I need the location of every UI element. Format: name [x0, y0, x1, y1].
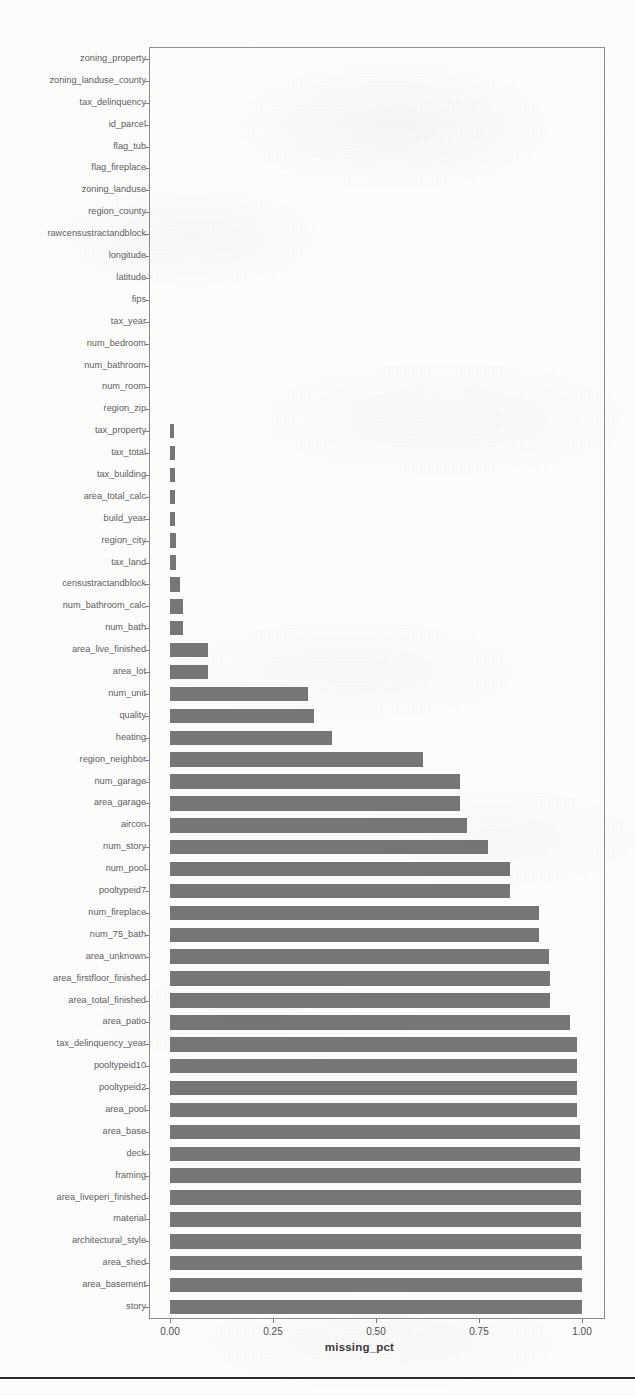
- y-tick-mark: [145, 475, 149, 476]
- bar: [170, 424, 174, 438]
- x-tick-mark: [273, 1319, 274, 1323]
- y-tick-mark: [145, 103, 149, 104]
- bar: [170, 971, 550, 985]
- bar: [170, 1081, 577, 1095]
- bar: [170, 774, 460, 788]
- bar-row: [150, 446, 604, 460]
- bar: [170, 906, 539, 920]
- page-bottom-rule: [0, 1377, 635, 1379]
- bar-row: [150, 468, 604, 482]
- y-tick-label: architectural_style: [6, 1236, 146, 1245]
- y-tick-mark: [145, 541, 149, 542]
- bar-row: [150, 577, 604, 591]
- bar: [170, 752, 423, 766]
- y-tick-mark: [145, 1176, 149, 1177]
- bar-row: [150, 314, 604, 328]
- y-tick-mark: [145, 409, 149, 410]
- bar-row: [150, 490, 604, 504]
- y-tick-mark: [145, 1066, 149, 1067]
- y-tick-mark: [145, 453, 149, 454]
- bar-row: [150, 709, 604, 723]
- y-tick-mark: [145, 957, 149, 958]
- bar-row: [150, 336, 604, 350]
- bar-row: [150, 1234, 604, 1248]
- bar-row: [150, 96, 604, 110]
- bar-row: [150, 1212, 604, 1226]
- bar: [170, 862, 510, 876]
- y-tick-label: area_liveperi_finished: [6, 1193, 146, 1202]
- y-tick-mark: [145, 147, 149, 148]
- y-tick-mark: [145, 979, 149, 980]
- y-tick-mark: [145, 387, 149, 388]
- y-tick-label: tax_property: [6, 426, 146, 435]
- bar-row: [150, 840, 604, 854]
- bar: [170, 731, 332, 745]
- y-tick-label: area_garage: [6, 798, 146, 807]
- bar-row: [150, 1147, 604, 1161]
- bar-row: [150, 293, 604, 307]
- bar: [170, 1125, 580, 1139]
- bars-layer: [150, 48, 604, 1318]
- y-tick-label: heating: [6, 733, 146, 742]
- bar: [170, 884, 510, 898]
- y-tick-mark: [145, 1219, 149, 1220]
- y-tick-mark: [145, 825, 149, 826]
- y-tick-label: flag_fireplace: [6, 163, 146, 172]
- y-tick-mark: [145, 847, 149, 848]
- y-tick-label: id_parcel: [6, 120, 146, 129]
- bar: [170, 1168, 581, 1182]
- bar-row: [150, 796, 604, 810]
- y-tick-label: num_75_bath: [6, 930, 146, 939]
- y-tick-label: flag_tub: [6, 142, 146, 151]
- y-tick-label: longitude: [6, 251, 146, 260]
- bar-row: [150, 1300, 604, 1314]
- y-tick-label: area_pool: [6, 1105, 146, 1114]
- bar-row: [150, 227, 604, 241]
- y-tick-label: num_unit: [6, 689, 146, 698]
- y-tick-mark: [145, 366, 149, 367]
- bar: [170, 490, 175, 504]
- y-tick-label: num_bathroom: [6, 361, 146, 370]
- y-tick-mark: [145, 168, 149, 169]
- y-tick-mark: [145, 1022, 149, 1023]
- y-tick-label: tax_total: [6, 448, 146, 457]
- y-tick-label: tax_year: [6, 317, 146, 326]
- bar-row: [150, 949, 604, 963]
- scanned-page: zoning_propertyzoning_landuse_countytax_…: [0, 0, 635, 1397]
- bar: [170, 446, 175, 460]
- missing-pct-bar-chart: zoning_propertyzoning_landuse_countytax_…: [0, 0, 635, 1360]
- y-tick-label: tax_delinquency: [6, 98, 146, 107]
- bar-row: [150, 533, 604, 547]
- y-tick-label: num_story: [6, 842, 146, 851]
- bar: [170, 796, 460, 810]
- bar-row: [150, 884, 604, 898]
- y-tick-label: tax_delinquency_year: [6, 1039, 146, 1048]
- bar: [170, 621, 183, 635]
- bar: [170, 928, 539, 942]
- y-tick-label: num_pool: [6, 864, 146, 873]
- bar-row: [150, 512, 604, 526]
- y-tick-mark: [145, 497, 149, 498]
- x-axis-title-text: missing_pct: [325, 1341, 394, 1353]
- y-tick-mark: [145, 650, 149, 651]
- bar-row: [150, 643, 604, 657]
- y-tick-mark: [145, 1154, 149, 1155]
- y-tick-label: censustractandblock: [6, 579, 146, 588]
- bar: [170, 687, 308, 701]
- y-tick-label: material: [6, 1214, 146, 1223]
- bar-row: [150, 205, 604, 219]
- y-tick-label: area_firstfloor_finished: [6, 974, 146, 983]
- bar-row: [150, 424, 604, 438]
- y-tick-mark: [145, 322, 149, 323]
- bar: [170, 949, 549, 963]
- y-tick-label: zoning_landuse: [6, 185, 146, 194]
- y-tick-label: region_city: [6, 536, 146, 545]
- y-tick-mark: [145, 1110, 149, 1111]
- bar-row: [150, 139, 604, 153]
- x-tick-mark: [170, 1319, 171, 1323]
- bar-row: [150, 731, 604, 745]
- y-tick-mark: [145, 913, 149, 914]
- y-tick-mark: [145, 606, 149, 607]
- bar: [170, 840, 488, 854]
- bar-row: [150, 774, 604, 788]
